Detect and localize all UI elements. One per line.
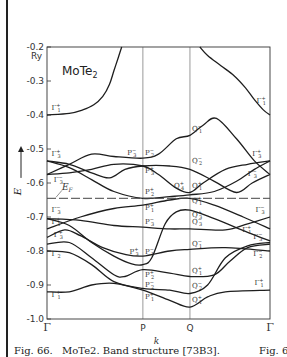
- fermi-level-subscript: F: [68, 186, 74, 193]
- y-unit-label: Ry: [31, 51, 43, 61]
- band-curves: [47, 47, 270, 307]
- band-9: [47, 242, 270, 277]
- band-label: P−2: [145, 279, 154, 290]
- band-label-subscript: 1: [151, 296, 154, 302]
- chart-title-text: MoTe2: [62, 64, 97, 80]
- chart-title-subscript: 2: [92, 71, 97, 80]
- x-tick-label: Γ: [266, 321, 274, 334]
- band-label-subscript: 1: [151, 207, 154, 213]
- band-label-subscript: 3: [262, 209, 265, 215]
- y-tick-label: -0.7: [26, 212, 44, 222]
- band-label-subscript: 3: [60, 179, 63, 185]
- figure-caption: Fig. 66. MoTe2. Band structure [73B3]. F…: [14, 345, 220, 356]
- band-label: Q−1: [192, 123, 202, 134]
- band-labels: Γ+1Γ+1Γ+3Γ−3Γ+3Γ−3P−3P−2P+3P+2Q−1Q−2Q+4Q…: [51, 95, 265, 305]
- band-label-subscript: 1: [263, 100, 266, 106]
- band-label: Q+1: [192, 294, 202, 305]
- band-label: Γ+1: [242, 224, 251, 235]
- band-label: Γ−3: [256, 204, 265, 215]
- caption-text: MoTe2. Band structure [73B3].: [62, 345, 220, 356]
- band-label: Γ+1: [254, 277, 263, 288]
- caption-figure-number: Fig. 66.: [14, 345, 53, 356]
- band-label: Γ−2: [51, 248, 60, 259]
- y-tick-label: -0.5: [26, 144, 44, 154]
- band-label-subscript: 3: [58, 153, 61, 159]
- band-label-subscript: 1: [199, 200, 202, 206]
- band-label-subscript: 1: [199, 270, 202, 276]
- band-label-subscript: 1: [199, 185, 202, 191]
- band-label-subscript: 3: [151, 221, 154, 227]
- band-label: P+3: [145, 165, 154, 176]
- band-structure-chart: -0.2-0.3-0.4-0.5-0.6-0.7-0.8-0.9-1.0RyE …: [0, 0, 287, 345]
- band-label: Γ+3: [54, 229, 63, 240]
- band-label: Q−1: [192, 238, 202, 249]
- band-label: Q+1: [192, 180, 202, 191]
- band-label: Γ+1: [51, 216, 60, 227]
- band-label-subscript: 3: [258, 153, 261, 159]
- band-label-subscript: 3: [254, 173, 257, 179]
- band-label-subscript: 1: [199, 243, 202, 249]
- band-label: Γ+1: [257, 95, 266, 106]
- band-label: Γ+1: [51, 289, 60, 300]
- x-tick-label: Q: [186, 323, 193, 333]
- band-label: Γ+3: [252, 148, 261, 159]
- band-label-subscript: 4: [181, 185, 184, 191]
- band-label: P+3: [130, 246, 139, 257]
- band-label: Γ+1: [51, 102, 60, 113]
- band-label-subscript: 3: [135, 251, 138, 257]
- band-label: Q+1: [192, 265, 202, 276]
- band-label-subscript: 3: [151, 170, 154, 176]
- band-label-subscript: 2: [58, 253, 61, 259]
- arrow-up-icon: [18, 146, 24, 152]
- y-axis-label: E: [12, 187, 23, 196]
- band-label: Γ+3: [51, 148, 60, 159]
- band-label: P−1: [145, 246, 154, 257]
- band-label-subscript: 3: [58, 209, 61, 215]
- band-label-subscript: 2: [199, 285, 202, 291]
- band-label-subscript: 1: [151, 251, 154, 257]
- band-label: P+2: [145, 186, 154, 197]
- band-label: Γ−2: [253, 248, 262, 259]
- x-tick-label: Γ: [43, 321, 51, 334]
- band-5: [47, 198, 270, 229]
- plot-frame: [47, 47, 270, 319]
- x-tick-label: P: [140, 323, 146, 333]
- band-label: Q+4: [174, 180, 184, 191]
- band-label: P+1: [145, 291, 154, 302]
- band-label-subscript: 2: [151, 284, 154, 290]
- caption-right-reference: Fig. 68: [259, 345, 287, 356]
- chart-title: MoTe2: [62, 64, 97, 80]
- y-tick-label: -0.9: [26, 280, 44, 290]
- band-10: [47, 243, 270, 294]
- x-axis: ΓPQΓk: [43, 321, 274, 345]
- band-label: Q+1: [192, 195, 202, 206]
- x-axis-label: k: [154, 336, 159, 345]
- band-label: Γ−3: [248, 168, 257, 179]
- band-7: [47, 210, 270, 266]
- band-label-subscript: 1: [58, 221, 61, 227]
- band-label: Γ−3: [51, 204, 60, 215]
- band-label-subscript: 3: [60, 234, 63, 240]
- band-label-subscript: 3: [259, 236, 262, 242]
- band-label: P−3: [127, 147, 136, 158]
- band-label: Q−3: [192, 216, 202, 227]
- band-label-subscript: 1: [199, 299, 202, 305]
- band-label-subscript: 2: [151, 191, 154, 197]
- y-tick-label: -1.0: [26, 314, 44, 324]
- fermi-level: EF: [47, 182, 270, 198]
- band-label: P−3: [145, 216, 154, 227]
- band-label-subscript: 1: [248, 229, 251, 235]
- y-tick-label: -0.4: [26, 110, 44, 120]
- y-tick-label: -0.6: [26, 178, 44, 188]
- band-label-subscript: 2: [259, 253, 262, 259]
- y-tick-label: -0.8: [26, 246, 44, 256]
- band-label-subscript: 3: [133, 152, 136, 158]
- band-label-subscript: 1: [199, 128, 202, 134]
- band-label: Γ−3: [253, 231, 262, 242]
- y-axis: -0.2-0.3-0.4-0.5-0.6-0.7-0.8-0.9-1.0RyE: [12, 42, 51, 324]
- band-label: Q−2: [192, 280, 202, 291]
- band-label: Q−2: [192, 155, 202, 166]
- plot-border: [47, 47, 270, 319]
- band-label-subscript: 1: [260, 282, 263, 288]
- band-label-subscript: 1: [58, 107, 61, 113]
